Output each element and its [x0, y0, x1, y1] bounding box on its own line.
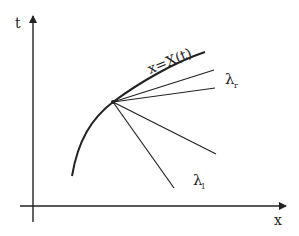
shock-curve — [72, 52, 205, 176]
lambda-l-label: λ l — [193, 171, 205, 191]
curve-label: x=X(t) — [145, 45, 194, 77]
x-axis-label: x — [274, 212, 282, 228]
svg-text:r: r — [234, 81, 238, 90]
characteristic-line-r1 — [113, 70, 214, 102]
characteristics-diagram: t x x=X(t) λ r λ l — [0, 0, 299, 236]
t-axis-label: t — [15, 15, 21, 31]
lambda-r-label: λ r — [225, 70, 238, 90]
characteristic-line-l2 — [113, 102, 174, 188]
junction-point — [111, 100, 115, 104]
characteristic-line-l1 — [113, 102, 216, 154]
svg-text:l: l — [202, 182, 205, 191]
